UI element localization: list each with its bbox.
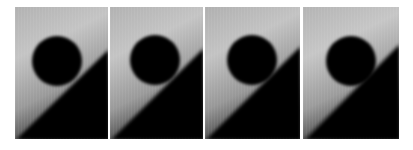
frame-1-image [15, 7, 108, 139]
frame-3-image [205, 7, 300, 139]
frame-1 [15, 7, 108, 139]
image-strip [0, 0, 413, 150]
frame-2 [110, 7, 203, 139]
frame-4 [303, 7, 399, 139]
frame-3 [205, 7, 300, 139]
frame-2-image [110, 7, 203, 139]
frame-4-image [303, 7, 399, 139]
